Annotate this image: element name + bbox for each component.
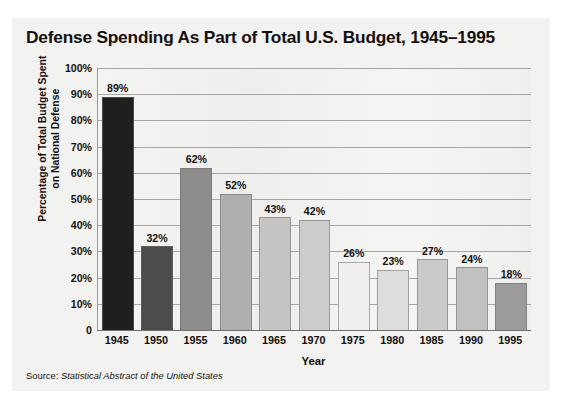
y-axis-tick-label: 60% bbox=[71, 168, 92, 179]
bar-slot: 89% bbox=[102, 68, 134, 330]
x-axis-tick-labels: 1945195019551960196519701975198019851990… bbox=[97, 334, 530, 346]
bar-slot: 26% bbox=[338, 68, 370, 330]
bar-slot: 27% bbox=[417, 68, 449, 330]
bar-value-label: 89% bbox=[107, 83, 128, 94]
bar-value-label: 43% bbox=[265, 204, 286, 215]
chart-title: Defense Spending As Part of Total U.S. B… bbox=[26, 27, 495, 48]
bar[interactable] bbox=[180, 168, 212, 330]
x-axis-tick-label: 1960 bbox=[219, 334, 251, 346]
x-axis-tick-label: 1970 bbox=[298, 334, 330, 346]
x-axis-tick-label: 1965 bbox=[258, 334, 290, 346]
bar-value-label: 18% bbox=[501, 269, 522, 280]
bar-slot: 23% bbox=[377, 68, 409, 330]
bar[interactable] bbox=[456, 267, 488, 330]
x-axis-tick-label: 1975 bbox=[337, 334, 369, 346]
bar[interactable] bbox=[377, 270, 409, 330]
bar-slot: 42% bbox=[299, 68, 331, 330]
x-axis-tick-label: 1945 bbox=[101, 334, 133, 346]
bar-slot: 62% bbox=[180, 68, 212, 330]
bar-value-label: 62% bbox=[186, 154, 207, 165]
bar-value-label: 24% bbox=[461, 254, 482, 265]
x-axis-tick-label: 1980 bbox=[376, 334, 408, 346]
bar[interactable] bbox=[299, 220, 331, 330]
y-axis-title-line-1: Percentage of Total Budget Spent bbox=[37, 56, 48, 222]
y-axis-tick-label: 70% bbox=[71, 142, 92, 153]
x-axis-tick-label: 1985 bbox=[416, 334, 448, 346]
bar-slot: 43% bbox=[259, 68, 291, 330]
bar-slot: 52% bbox=[220, 68, 252, 330]
plot-area: 89%32%62%52%43%42%26%23%27%24%18% bbox=[97, 68, 531, 331]
x-axis-tick-label: 1955 bbox=[179, 334, 211, 346]
bar-value-label: 23% bbox=[383, 256, 404, 267]
bar[interactable] bbox=[495, 283, 527, 330]
bar[interactable] bbox=[259, 217, 291, 330]
source-publication: Statistical Abstract of the United State… bbox=[61, 370, 223, 381]
y-axis-tick-label: 90% bbox=[71, 89, 92, 100]
bar[interactable] bbox=[338, 262, 370, 330]
bar-value-label: 26% bbox=[343, 248, 364, 259]
bar[interactable] bbox=[141, 246, 173, 330]
bar[interactable] bbox=[417, 259, 449, 330]
source-prefix: Source: bbox=[26, 370, 61, 381]
x-axis-title: Year bbox=[97, 355, 530, 367]
x-axis-tick-label: 1950 bbox=[140, 334, 172, 346]
y-axis-tick-labels: 100%90%80%70%60%50%40%30%20%10%0 bbox=[50, 68, 92, 330]
bar-value-label: 32% bbox=[146, 233, 167, 244]
y-axis-tick-label: 40% bbox=[71, 220, 92, 231]
bar-slot: 24% bbox=[456, 68, 488, 330]
y-axis-tick-label: 80% bbox=[71, 115, 92, 126]
bar[interactable] bbox=[102, 97, 134, 330]
x-axis-tick-label: 1995 bbox=[494, 334, 526, 346]
chart-figure: Defense Spending As Part of Total U.S. B… bbox=[12, 18, 550, 391]
y-axis-tick-label: 30% bbox=[71, 246, 92, 257]
source-note: Source: Statistical Abstract of the Unit… bbox=[26, 370, 223, 381]
bar-series: 89%32%62%52%43%42%26%23%27%24%18% bbox=[98, 68, 531, 330]
bar-value-label: 27% bbox=[422, 246, 443, 257]
y-axis-tick-label: 100% bbox=[65, 63, 92, 74]
bar-slot: 18% bbox=[495, 68, 527, 330]
bar-slot: 32% bbox=[141, 68, 173, 330]
bar[interactable] bbox=[220, 194, 252, 330]
y-axis-tick-label: 20% bbox=[71, 273, 92, 284]
y-axis-tick-label: 10% bbox=[71, 299, 92, 310]
bar-value-label: 42% bbox=[304, 206, 325, 217]
x-axis-tick-label: 1990 bbox=[455, 334, 487, 346]
y-axis-tick-label: 50% bbox=[71, 194, 92, 205]
bar-value-label: 52% bbox=[225, 180, 246, 191]
y-axis-tick-label: 0 bbox=[86, 325, 92, 336]
